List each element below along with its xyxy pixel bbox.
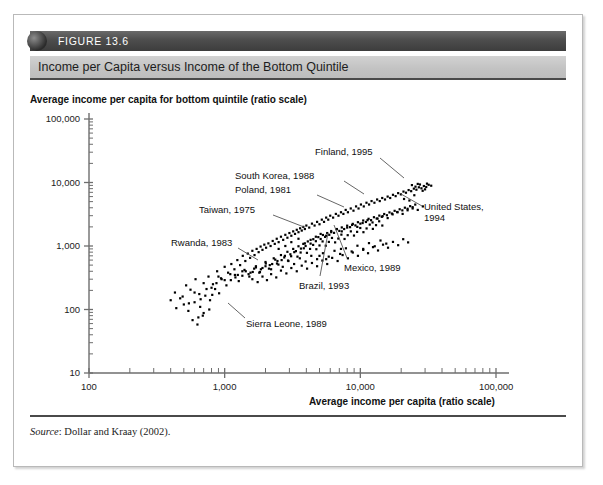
x-tick-label: 100,000 [479,381,513,392]
chart-annotation: Mexico, 1989 [344,262,401,273]
y-tick-label: 10 [14,367,80,378]
chart-annotation: Taiwan, 1975 [199,204,255,215]
y-tick-label: 10,000 [14,177,80,188]
chart-annotation: United States, 1994 [424,201,494,223]
source-citation: : Dollar and Kraay (2002). [59,426,171,437]
x-tick-label: 10,000 [346,381,375,392]
source-note: Source: Dollar and Kraay (2002). [30,426,170,437]
figure-box: FIGURE 13.6 Income per Capita versus Inc… [13,14,583,467]
chart-annotation: Sierra Leone, 1989 [246,318,327,329]
source-divider [30,415,566,417]
chart-annotation: Rwanda, 1983 [171,237,232,248]
scatter-plot [14,15,584,468]
chart-annotation: South Korea, 1988 [235,170,314,181]
x-tick-label: 1,000 [213,381,237,392]
y-tick-label: 100,000 [14,113,80,124]
chart-annotation: Poland, 1981 [235,184,291,195]
source-prefix: Source [30,426,59,437]
chart-annotation: Finland, 1995 [315,146,373,157]
y-tick-label: 1,000 [14,240,80,251]
y-tick-label: 100 [14,304,80,315]
x-tick-label: 100 [81,381,97,392]
chart-annotation: Brazil, 1993 [299,280,349,291]
